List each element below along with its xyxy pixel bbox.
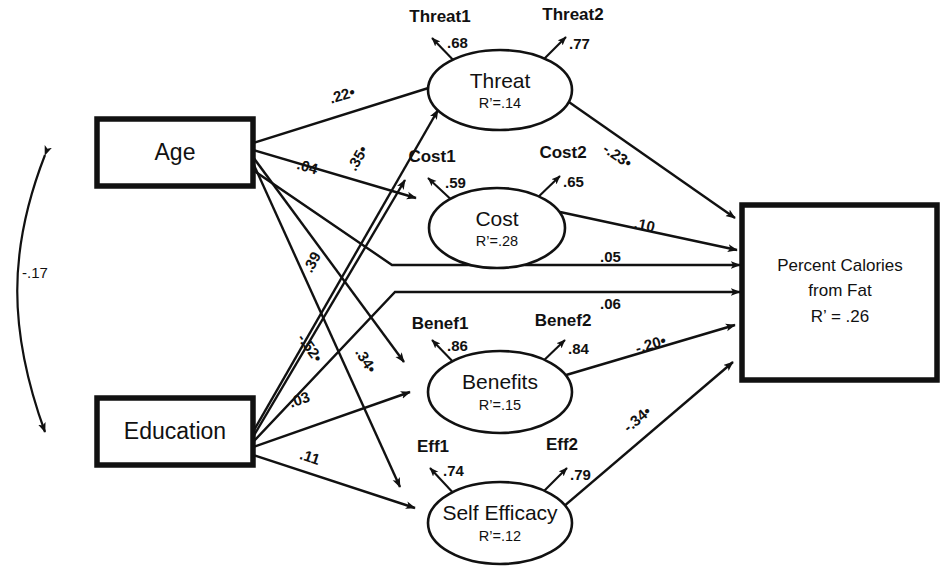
latent-cost-label: Cost <box>475 207 518 230</box>
latent-self-efficacy-r2: R’=.12 <box>479 528 521 544</box>
outcome-line1: Percent Calories <box>777 256 903 275</box>
latent-threat-label: Threat <box>470 69 531 92</box>
coef-education-cost: .35• <box>343 142 371 173</box>
indicator-eff2: Eff2 <box>546 435 578 454</box>
latent-benefits-label: Benefits <box>462 370 538 393</box>
latent-threat[interactable]: Threat R’=.14 <box>428 50 572 130</box>
loading-value-cost2: .65 <box>563 173 584 190</box>
latent-cost-r2: R’=.28 <box>476 233 518 249</box>
outcome-line2: from Fat <box>808 281 872 300</box>
latent-benefits-r2: R’=.15 <box>479 397 521 413</box>
coef-correlation-age-education: -.17 <box>22 264 48 281</box>
coef-efficacy-outcome: -.34• <box>620 402 655 435</box>
coef-age-threat: .22• <box>327 83 357 107</box>
coef-education-efficacy: .11 <box>298 445 322 467</box>
box-age[interactable]: Age <box>97 119 253 186</box>
coef-age-outcome: .05 <box>600 248 621 265</box>
coef-education-benefits: .03 <box>287 388 312 411</box>
latent-threat-r2: R’=.14 <box>479 95 521 111</box>
box-age-label: Age <box>155 139 196 165</box>
coef-education-outcome: .06 <box>600 295 621 312</box>
loading-value-eff1: .74 <box>443 462 465 479</box>
coef-benefits-outcome: -.20• <box>633 331 668 356</box>
box-education-label: Education <box>124 418 226 444</box>
path-education-benefits <box>253 392 410 447</box>
indicator-eff1: Eff1 <box>417 437 449 456</box>
indicator-cost1: Cost1 <box>408 147 455 166</box>
coef-cost-outcome: .10 <box>633 214 657 235</box>
path-education-efficacy <box>253 455 415 508</box>
latent-self-efficacy-label: Self Efficacy <box>442 501 558 524</box>
path-education-cost <box>253 180 405 437</box>
outcome-line3: R’ = .26 <box>811 307 869 326</box>
path-efficacy-outcome <box>556 362 733 513</box>
loading-value-threat1: .68 <box>447 34 468 51</box>
latent-self-efficacy[interactable]: Self Efficacy R’=.12 <box>428 482 572 564</box>
indicator-threat2: Threat2 <box>542 5 603 24</box>
path-threat-outcome <box>566 100 735 218</box>
indicator-cost2: Cost2 <box>539 143 586 162</box>
indicator-benef2: Benef2 <box>535 311 592 330</box>
coef-age-cost: .04 <box>295 155 320 177</box>
latent-cost[interactable]: Cost R’=.28 <box>429 188 565 268</box>
indicator-threat1: Threat1 <box>409 7 470 26</box>
loading-value-benef2: .84 <box>568 340 590 357</box>
path-diagram-svg: Age Education Threat R’=.14 Cost R’=.28 … <box>0 0 945 567</box>
coef-age-efficacy: .34• <box>352 345 380 376</box>
correlation-curve-age-education <box>17 155 45 432</box>
loading-value-cost1: .59 <box>445 174 466 191</box>
box-education[interactable]: Education <box>97 398 253 465</box>
loading-value-benef1: .86 <box>447 337 468 354</box>
sem-diagram-canvas: Age Education Threat R’=.14 Cost R’=.28 … <box>0 0 945 567</box>
loading-value-eff2: .79 <box>570 466 591 483</box>
indicator-benef1: Benef1 <box>412 314 469 333</box>
latent-benefits[interactable]: Benefits R’=.15 <box>428 351 572 433</box>
box-outcome[interactable]: Percent Calories from Fat R’ = .26 <box>742 205 937 380</box>
loading-value-threat2: .77 <box>569 35 590 52</box>
